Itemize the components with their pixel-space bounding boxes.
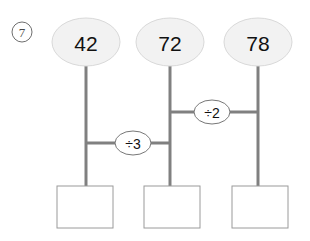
answer-box-3[interactable] [232,186,288,228]
value-node-1-label: 42 [74,32,97,55]
operator-divide-by-2-label: ÷2 [204,105,220,121]
operator-divide-by-3: ÷3 [115,131,151,155]
operator-divide-by-2: ÷2 [194,100,230,124]
problem-number-label: 7 [19,25,26,40]
operator-divide-by-3-label: ÷3 [125,136,141,152]
horizontal-connectors [86,112,258,143]
answer-box-2[interactable] [144,186,200,228]
answer-box-2-field[interactable] [144,186,200,228]
math-worksheet-problem: 7 42 72 78 ÷3 [0,0,310,241]
answer-box-3-field[interactable] [232,186,288,228]
value-node-2-label: 72 [158,32,181,55]
value-node-2: 72 [136,18,204,66]
value-node-1: 42 [52,18,120,66]
diagram-canvas: 7 42 72 78 ÷3 [0,0,310,241]
answer-box-1[interactable] [57,186,113,228]
answer-box-1-field[interactable] [57,186,113,228]
problem-number-marker: 7 [12,22,32,42]
value-node-3: 78 [224,18,292,66]
vertical-connectors [86,66,258,186]
value-node-3-label: 78 [246,32,269,55]
